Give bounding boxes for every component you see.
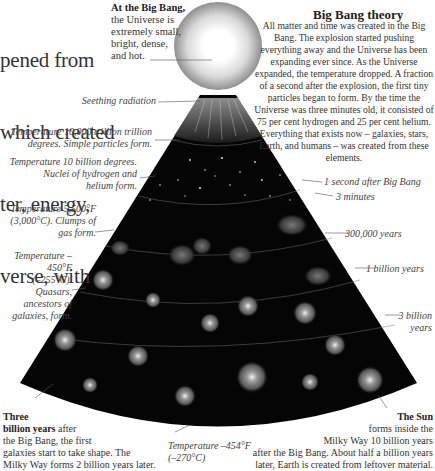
note-nuclei: Temperature 10 billion degrees. Nuclei o… <box>0 156 137 192</box>
big-bang-label: At the Big Bang, the Universe is extreme… <box>111 2 185 62</box>
note-gas-clumps: Temperature 5,500°F (3,000°C). Clumps of… <box>0 203 96 239</box>
timeline-3-minutes: 3 minutes <box>336 191 375 203</box>
note-simple-particles: Temperature 10,000 trillion trillion deg… <box>0 126 152 150</box>
big-bang-ball <box>174 2 262 90</box>
timeline-300000-years: 300,000 years <box>345 228 402 240</box>
seething-radiation <box>174 98 262 143</box>
timeline-1-billion-years: 1 billion years <box>366 263 424 275</box>
theory-body: All matter and time was created in the B… <box>253 20 435 164</box>
note-quasars: Temperature –450°F (–255°C). Quasars, an… <box>0 250 72 322</box>
note-final-temperature: Temperature –454°F (–270°C) <box>168 440 251 464</box>
timeline-1-second: 1 second after Big Bang <box>324 176 421 188</box>
note-the-sun: The Sun forms inside the Milky Way 10 bi… <box>268 411 433 471</box>
note-seething-radiation: Seething radiation <box>70 95 156 107</box>
note-three-billion-years: Three billion years after the Big Bang, … <box>3 411 163 471</box>
timeline-3-billion-years: 3 billion years <box>396 310 432 334</box>
